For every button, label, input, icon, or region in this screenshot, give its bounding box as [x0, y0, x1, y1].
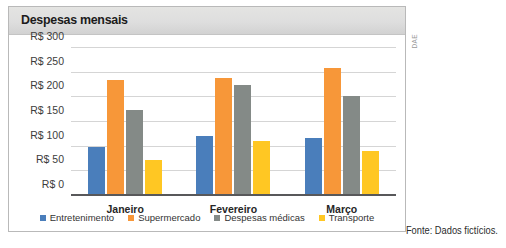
legend-label: Transporte — [329, 212, 375, 223]
bar — [126, 110, 143, 196]
x-axis-line — [71, 194, 396, 196]
watermark-label: DAE — [411, 34, 418, 49]
bar — [343, 96, 360, 196]
legend-item[interactable]: Supermercado — [128, 212, 200, 223]
legend-label: Supermercado — [138, 212, 200, 223]
legend-item[interactable]: Transporte — [319, 212, 375, 223]
legend-label: Despesas médicas — [224, 212, 304, 223]
legend-swatch — [40, 215, 46, 221]
bar — [253, 141, 270, 196]
y-axis-tick-label: R$ 150 — [30, 104, 64, 116]
y-axis-tick-label: R$ 250 — [30, 55, 64, 67]
legend-swatch — [128, 215, 134, 221]
y-axis-tick-label: R$ 50 — [36, 153, 64, 165]
chart-legend: EntretenimentoSupermercadoDespesas médic… — [9, 212, 405, 223]
source-note: Fonte: Dados fictícios. — [406, 225, 498, 236]
y-axis-tick-label: R$ 100 — [30, 129, 64, 141]
bar — [88, 147, 105, 196]
chart-title: Despesas mensais — [21, 12, 128, 27]
bar — [196, 136, 213, 196]
bar-group: Janeiro — [71, 48, 179, 196]
bar — [305, 138, 322, 196]
bar — [215, 78, 232, 196]
y-axis-tick-label: R$ 200 — [30, 79, 64, 91]
bar — [145, 160, 162, 196]
bar — [362, 151, 379, 196]
legend-swatch — [319, 215, 325, 221]
bar-group: Fevereiro — [179, 48, 287, 196]
y-axis-tick-label: R$ 0 — [42, 178, 64, 190]
bar-group: Março — [288, 48, 396, 196]
legend-swatch — [214, 215, 220, 221]
plot-area: R$ 0R$ 50R$ 100R$ 150R$ 200R$ 250R$ 300 … — [71, 48, 396, 196]
figure-container: Despesas mensais R$ 0R$ 50R$ 100R$ 150R$… — [0, 0, 506, 248]
bar — [107, 80, 124, 196]
y-axis-tick-label: R$ 300 — [30, 30, 64, 42]
bar — [234, 85, 251, 196]
legend-item[interactable]: Entretenimento — [40, 212, 114, 223]
chart-panel: Despesas mensais R$ 0R$ 50R$ 100R$ 150R$… — [8, 6, 406, 232]
bar — [324, 68, 341, 196]
legend-item[interactable]: Despesas médicas — [214, 212, 304, 223]
legend-label: Entretenimento — [50, 212, 114, 223]
